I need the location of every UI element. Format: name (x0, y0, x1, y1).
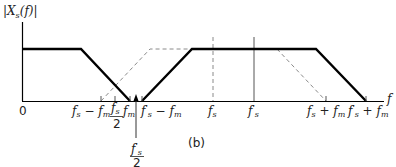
svg-text:f's: f's (130, 141, 142, 157)
label-fs-plus-fm: fs + fm (306, 104, 346, 119)
dashed-spectrum-fs-right (277, 49, 326, 101)
label-fm: fm (122, 104, 135, 119)
label-fps-plus-fm: f's + fm (347, 103, 389, 119)
origin-label: 0 (19, 104, 27, 118)
svg-text:fs: fs (110, 101, 120, 116)
spectrum-diagram: |Xs(f)| f 0 fs − fm fs 2 fm f's − fm f' (0, 0, 396, 167)
label-fps: f's (247, 103, 259, 119)
svg-text:2: 2 (113, 117, 121, 131)
baseband-spectrum (22, 49, 130, 101)
panel-label: (b) (188, 136, 205, 150)
dashed-spectrum-fs (101, 49, 192, 101)
label-fs-minus-fm: fs − fm (71, 104, 111, 119)
label-fs: fs (207, 104, 217, 119)
svg-text:2: 2 (133, 156, 141, 167)
label-fs-over-2: fs 2 (110, 101, 123, 131)
ticks (101, 96, 366, 101)
label-fps-over-2: f's 2 (130, 141, 144, 167)
y-axis-label: |Xs(f)| (3, 4, 38, 20)
fps-half-arrowhead-icon (134, 94, 139, 101)
label-fps-minus-fm: f's − fm (140, 103, 182, 119)
x-axis-label: f (386, 92, 394, 106)
